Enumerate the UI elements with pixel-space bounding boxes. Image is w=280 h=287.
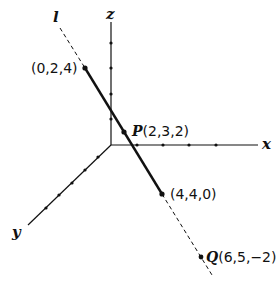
line-l	[60, 28, 212, 275]
z-axis	[109, 22, 112, 145]
point-label-4-4-0: (4,4,0)	[170, 187, 217, 201]
y-axis-label: y	[12, 225, 21, 240]
line-l-label: l	[53, 10, 59, 25]
point-q-name: Q	[206, 249, 218, 265]
point-label-p: P(2,3,2)	[132, 124, 189, 138]
point-q-coords: (6,5,−2)	[218, 249, 276, 265]
3d-line-diagram: z x y l (0,2,4) P(2,3,2) (4,4,0) Q(6,5,−…	[0, 0, 280, 287]
z-axis-label: z	[106, 7, 115, 22]
point-p-coords: (2,3,2)	[143, 123, 190, 139]
point-label-0-2-4: (0,2,4)	[31, 61, 78, 75]
point-0-2-4-dot	[82, 65, 87, 70]
point-p-name: P	[132, 123, 143, 139]
diagram-graphics	[0, 0, 280, 287]
point-p-dot	[121, 129, 126, 134]
point-q-dot	[199, 255, 204, 260]
point-4-4-0-dot	[159, 191, 164, 196]
point-label-q: Q(6,5,−2)	[206, 250, 276, 264]
y-axis	[28, 145, 111, 225]
x-axis-label: x	[262, 137, 271, 152]
